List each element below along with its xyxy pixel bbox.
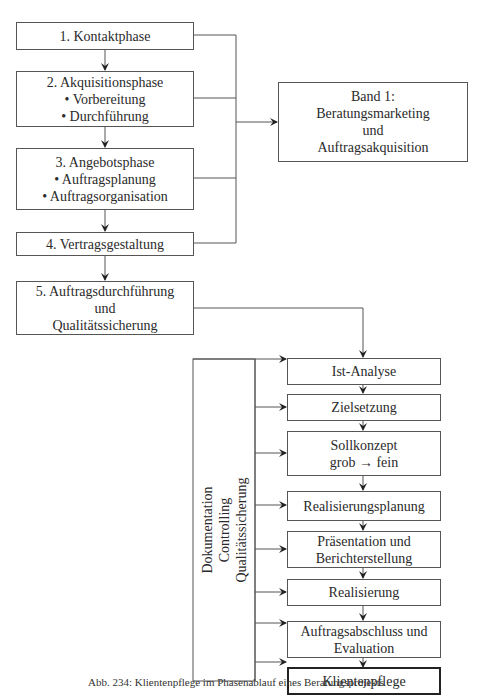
step-label: Präsentation und [317, 533, 411, 550]
phase-1-box: 1. Kontaktphase [16, 22, 194, 50]
step-label: Sollkonzept [331, 437, 398, 454]
step-label: Auftragsabschluss und [300, 623, 427, 640]
step-praesentation: Präsentation und Berichterstellung [287, 531, 441, 568]
step-zielsetzung: Zielsetzung [287, 394, 441, 421]
step-label: Zielsetzung [331, 399, 396, 416]
phase-5-line: und [95, 300, 116, 317]
step-auftragsabschluss: Auftragsabschluss und Evaluation [287, 621, 441, 658]
phase-5-line: Qualitätssicherung [53, 317, 158, 334]
side-line: Qualitätssicherung [233, 455, 250, 605]
grob-label: grob [330, 455, 356, 470]
phase-2-box: 2. Akquisitionsphase • Vorbereitung • Du… [16, 71, 194, 127]
band-line: Band 1: [351, 88, 395, 105]
step-realisierung: Realisierung [287, 579, 441, 606]
band-line: Beratungsmarketing [316, 105, 430, 122]
phase-4-box: 4. Vertragsgestaltung [16, 232, 194, 256]
step-sublabel: grob → fein [330, 454, 398, 471]
phase-2-title: 2. Akquisitionsphase [47, 74, 164, 91]
band-1-box: Band 1: Beratungsmarketing und Auftragsa… [278, 82, 468, 162]
step-ist-analyse: Ist-Analyse [287, 358, 441, 385]
phase-2-item: • Durchführung [61, 108, 149, 125]
phase-3-title: 3. Angebotsphase [56, 154, 155, 171]
side-box-label: Dokumentation Controlling Qualitätssiche… [196, 455, 252, 605]
band-line: Auftragsakquisition [317, 139, 428, 156]
phase-3-item: • Auftragsorganisation [42, 188, 168, 205]
phase-4-title: 4. Vertragsgestaltung [46, 236, 164, 253]
side-line: Dokumentation [199, 455, 216, 605]
figure-caption: Abb. 234: Klientenpflege im Phasenablauf… [88, 676, 384, 688]
phase-2-item: • Vorbereitung [65, 91, 146, 108]
arrow-right-icon: → [359, 455, 373, 470]
phase-5-box: 5. Auftragsdurchführung und Qualitätssic… [16, 281, 194, 335]
fein-label: fein [376, 455, 398, 470]
step-label: Berichterstellung [316, 550, 412, 567]
step-label: Realisierung [329, 584, 400, 601]
step-label: Ist-Analyse [332, 363, 397, 380]
step-realisierungsplanung: Realisierungsplanung [287, 491, 441, 521]
step-sollkonzept: Sollkonzept grob → fein [287, 431, 441, 476]
phase-1-title: 1. Kontaktphase [60, 28, 151, 45]
phase-3-box: 3. Angebotsphase • Auftragsplanung • Auf… [16, 148, 194, 210]
step-label: Realisierungsplanung [303, 498, 424, 515]
phase-3-item: • Auftragsplanung [54, 171, 156, 188]
step-label: Evaluation [334, 640, 395, 657]
phase-5-line: 5. Auftragsdurchführung [36, 283, 174, 300]
band-line: und [363, 122, 384, 139]
side-line: Controlling [216, 455, 233, 605]
